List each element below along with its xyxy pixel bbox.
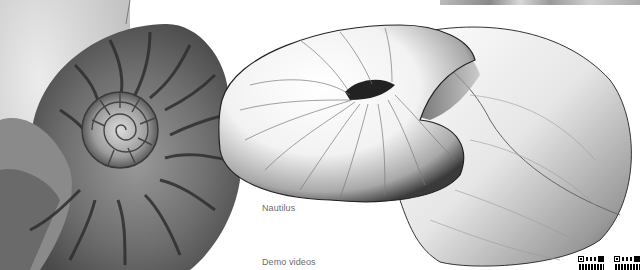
qr-code-2[interactable] (614, 256, 640, 270)
nautilus-label[interactable]: Nautilus (262, 203, 295, 213)
qr-code-1[interactable] (578, 256, 604, 270)
page: Nautilus Demo videos (0, 0, 640, 270)
demo-videos-label[interactable]: Demo videos (262, 257, 316, 267)
nautilus-3d-render (0, 0, 640, 270)
